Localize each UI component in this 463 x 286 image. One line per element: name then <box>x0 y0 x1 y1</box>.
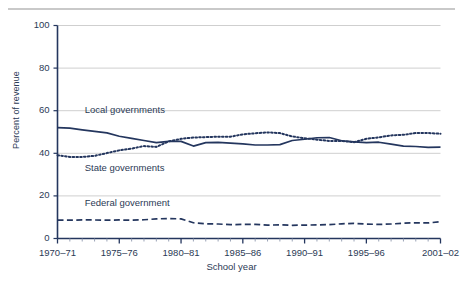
series-label-local-governments: Local governments <box>85 104 165 115</box>
data-series-group <box>58 128 441 226</box>
y-tick-label: 20 <box>14 189 50 200</box>
y-tick-label: 80 <box>14 62 50 73</box>
x-tick-label: 1995–96 <box>336 247 396 258</box>
x-tick-label: 1985–86 <box>213 247 273 258</box>
series-label-state-governments: State governments <box>85 162 165 173</box>
x-tick-label: 1980–81 <box>151 247 211 258</box>
chart-figure: Percent of revenue School year 020406080… <box>0 0 463 286</box>
y-tick-label: 0 <box>14 232 50 243</box>
x-tick-label: 1990–91 <box>275 247 335 258</box>
x-tick-label: 2001–02 <box>411 247 463 258</box>
series-label-federal-government: Federal government <box>85 197 170 208</box>
series-line-federal-government <box>58 218 441 225</box>
y-tick-label: 40 <box>14 147 50 158</box>
series-line-local-governments <box>58 128 441 148</box>
y-tick-label: 100 <box>14 19 50 30</box>
x-tick-label: 1975–76 <box>89 247 149 258</box>
x-tick-label: 1970–71 <box>28 247 88 258</box>
line-chart-canvas <box>0 0 463 286</box>
x-axis-title: School year <box>0 261 463 272</box>
y-tick-label: 60 <box>14 104 50 115</box>
